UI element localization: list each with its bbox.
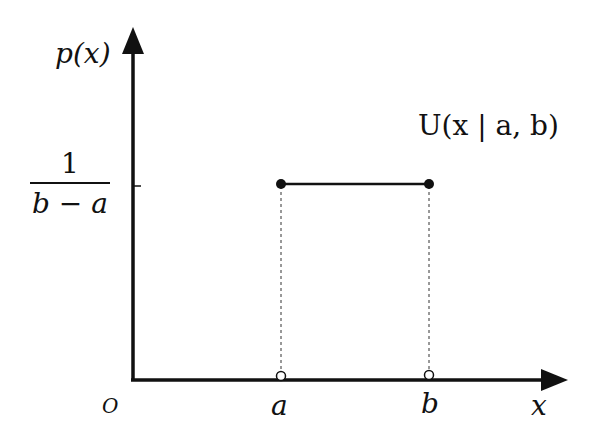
fraction-bar	[30, 182, 110, 184]
closed-point-a	[276, 179, 286, 189]
open-point-a	[277, 372, 286, 381]
point-a-label: a	[271, 392, 288, 420]
open-point-b	[425, 371, 434, 380]
density-value-label: 1 b − a	[30, 148, 110, 220]
closed-point-b	[424, 179, 434, 189]
point-b-label: b	[421, 390, 439, 418]
origin-label: O	[102, 396, 118, 416]
density-numerator: 1	[30, 148, 110, 180]
x-axis-label: x	[531, 392, 547, 420]
y-axis-arrowhead	[122, 27, 144, 54]
distribution-label: U(x | a, b)	[418, 112, 559, 140]
x-axis-arrowhead	[541, 369, 568, 391]
y-axis-label: p(x)	[55, 40, 111, 68]
distribution-label-text: U(x | a, b)	[418, 109, 559, 142]
density-denominator: b − a	[30, 188, 110, 220]
